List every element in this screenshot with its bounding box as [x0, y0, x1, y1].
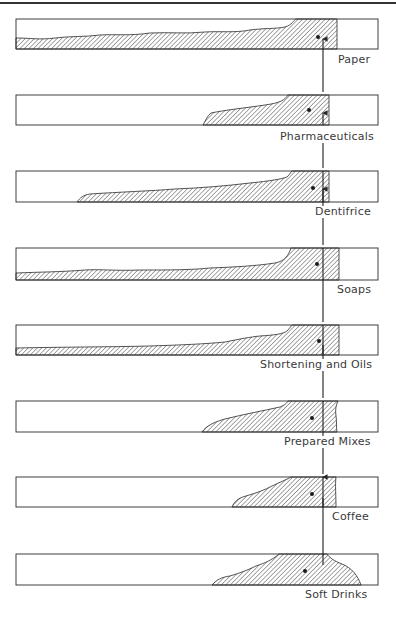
distribution-diagram [0, 0, 396, 618]
distribution-area [202, 401, 338, 432]
label-coffee: Coffee [331, 511, 370, 523]
label-soft-drinks: Soft Drinks [304, 589, 369, 601]
distribution-area [16, 248, 339, 280]
panel-shortening-and-oils [16, 325, 378, 355]
panel-soaps [16, 248, 378, 280]
distribution-area [16, 19, 337, 49]
panel-coffee [16, 477, 378, 507]
label-soaps: Soaps [336, 284, 372, 296]
distribution-area [232, 477, 336, 507]
label-prepared-mixes: Prepared Mixes [283, 436, 372, 448]
panel-soft-drinks [16, 554, 378, 585]
label-pharmaceuticals: Pharmaceuticals [279, 131, 375, 143]
panel-pharmaceuticals [16, 95, 378, 125]
mean-dot [311, 186, 315, 190]
mean-dot [315, 262, 319, 266]
label-paper: Paper [337, 54, 371, 66]
distribution-area [212, 554, 361, 585]
mean-dot [310, 492, 314, 496]
distribution-area [77, 171, 329, 202]
mean-dot [310, 416, 314, 420]
panel-paper [16, 19, 378, 49]
label-dentifrice: Dentifrice [314, 206, 372, 218]
mean-dot [316, 35, 320, 39]
panel-prepared-mixes [16, 401, 378, 432]
label-shortening-and-oils: Shortening and Oils [259, 359, 373, 371]
distribution-area [16, 325, 339, 355]
mean-dot [303, 569, 307, 573]
panel-dentifrice [16, 171, 378, 202]
mean-dot [317, 339, 321, 343]
mean-dot [307, 108, 311, 112]
